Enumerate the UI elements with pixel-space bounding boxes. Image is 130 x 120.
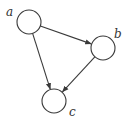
edge-a-to-b (40, 26, 91, 44)
node-label-c: c (69, 105, 76, 119)
node-label-b: b (114, 27, 122, 41)
node-b (91, 36, 115, 60)
nodes-group: abc (6, 5, 122, 119)
node-label-a: a (6, 5, 13, 19)
edge-b-to-c (62, 57, 94, 92)
edges-group (33, 26, 95, 92)
graph-diagram: abc (0, 0, 130, 120)
node-a (17, 10, 41, 34)
node-c (42, 89, 66, 113)
edge-a-to-c (33, 33, 51, 89)
